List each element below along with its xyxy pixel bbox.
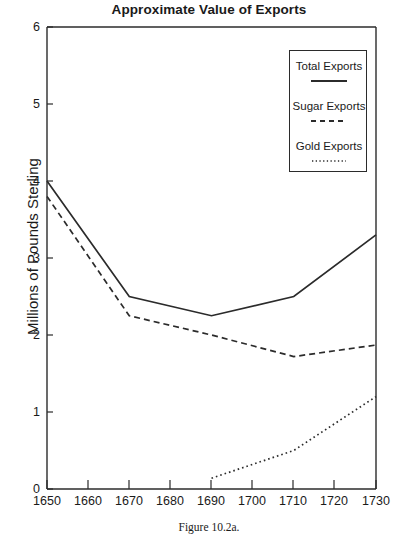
legend-label-sugar-exports: Sugar Exports: [290, 99, 368, 113]
x-axis-ticks: [47, 480, 376, 489]
x-tick-1730: 1730: [354, 494, 398, 508]
x-tick-1680: 1680: [148, 494, 192, 508]
chart-legend: Total Exports Sugar Exports Gold Exports: [289, 50, 367, 172]
y-tick-6: 6: [14, 20, 40, 34]
legend-item-total-exports: Total Exports: [290, 59, 368, 84]
y-tick-1: 1: [14, 405, 40, 419]
legend-swatch-dashed: [309, 118, 349, 124]
figure-container: Approximate Value of Exports: [0, 0, 418, 543]
legend-swatch-dotted: [309, 158, 349, 164]
x-tick-1690: 1690: [189, 494, 233, 508]
y-axis-ticks: [47, 27, 53, 489]
x-tick-1660: 1660: [66, 494, 110, 508]
x-tick-1720: 1720: [312, 494, 356, 508]
x-tick-1670: 1670: [107, 494, 151, 508]
series-total-exports: [47, 181, 376, 316]
legend-item-sugar-exports: Sugar Exports: [290, 99, 368, 124]
series-gold-exports: [212, 397, 377, 479]
legend-label-gold-exports: Gold Exports: [290, 139, 368, 153]
legend-label-total-exports: Total Exports: [290, 59, 368, 73]
legend-item-gold-exports: Gold Exports: [290, 139, 368, 164]
y-axis-title: Millions of Pounds Sterling: [24, 132, 41, 362]
legend-swatch-solid: [309, 78, 349, 84]
x-tick-1700: 1700: [230, 494, 274, 508]
series-sugar-exports: [47, 196, 376, 356]
x-tick-1710: 1710: [271, 494, 315, 508]
data-series-group: [47, 181, 376, 478]
y-tick-5: 5: [14, 97, 40, 111]
x-tick-1650: 1650: [25, 494, 69, 508]
figure-caption: Figure 10.2a.: [0, 521, 418, 533]
